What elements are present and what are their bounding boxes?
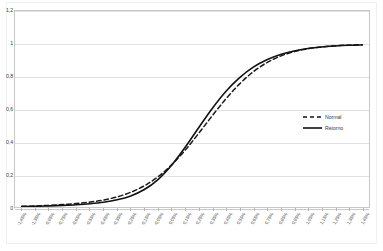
x-tick-mark	[76, 208, 77, 211]
x-tick-mark	[240, 208, 241, 211]
x-tick-mark	[21, 208, 22, 211]
x-tick-mark	[103, 208, 104, 211]
x-tick-mark	[62, 208, 63, 211]
x-tick-label: 0,95%	[291, 212, 302, 225]
y-tick-label: 0	[10, 205, 13, 211]
x-tick-mark	[89, 208, 90, 211]
x-tick-label: -0,75%	[57, 212, 68, 227]
x-tick-label: 0,55%	[236, 212, 247, 225]
x-tick-mark	[281, 208, 282, 211]
x-tick-label: 1,35%	[346, 212, 357, 225]
x-axis: -1,45%-1,35%-0,95%-0,75%-0,65%-0,55%-0,4…	[14, 208, 370, 248]
x-tick-label: 0,75%	[264, 212, 275, 225]
x-tick-label: 1,45%	[359, 212, 370, 225]
x-tick-label: 0,05%	[168, 212, 179, 225]
x-tick-label: 0,25%	[195, 212, 206, 225]
x-tick-mark	[322, 208, 323, 211]
x-tick-mark	[336, 208, 337, 211]
x-tick-label: 0,15%	[181, 212, 192, 225]
legend-swatch-retorno	[303, 125, 322, 131]
x-tick-label: 1,05%	[305, 212, 316, 225]
x-tick-mark	[35, 208, 36, 211]
y-tick-label: 1,2	[6, 7, 13, 13]
y-tick-label: 0,6	[6, 106, 13, 112]
x-tick-label: 1,15%	[318, 212, 329, 225]
x-tick-label: 1,25%	[332, 212, 343, 225]
x-tick-label: 0,85%	[277, 212, 288, 225]
y-tick-label: 0,2	[6, 172, 13, 178]
legend-label: Normal	[325, 114, 341, 120]
x-tick-label: 0,35%	[209, 212, 220, 225]
y-axis: 1,210,80,60,40,20	[0, 10, 14, 208]
x-tick-mark	[254, 208, 255, 211]
legend-swatch-normal	[303, 114, 322, 120]
x-tick-mark	[130, 208, 131, 211]
x-tick-label: -0,15%	[140, 212, 151, 227]
x-tick-mark	[226, 208, 227, 211]
x-tick-mark	[144, 208, 145, 211]
x-tick-mark	[48, 208, 49, 211]
chart-legend: NormalRetorno	[303, 111, 369, 133]
legend-item-retorno: Retorno	[303, 122, 369, 133]
x-tick-mark	[185, 208, 186, 211]
chart-figure: 1,210,80,60,40,20 -1,45%-1,35%-0,95%-0,7…	[0, 0, 383, 251]
y-tick-label: 1	[10, 40, 13, 46]
x-tick-label: 0,65%	[250, 212, 261, 225]
x-tick-mark	[349, 208, 350, 211]
x-tick-label: -1,35%	[30, 212, 41, 227]
x-tick-mark	[363, 208, 364, 211]
x-tick-mark	[117, 208, 118, 211]
x-tick-mark	[267, 208, 268, 211]
y-tick-label: 0,8	[6, 73, 13, 79]
x-tick-mark	[199, 208, 200, 211]
x-tick-mark	[213, 208, 214, 211]
x-tick-mark	[158, 208, 159, 211]
x-tick-mark	[308, 208, 309, 211]
x-tick-label: -0,25%	[126, 212, 137, 227]
x-tick-label: -0,65%	[71, 212, 82, 227]
y-tick-label: 0,4	[6, 139, 13, 145]
x-tick-mark	[295, 208, 296, 211]
plot-area	[14, 10, 370, 208]
x-tick-mark	[171, 208, 172, 211]
series-lines	[15, 11, 369, 207]
x-tick-label: -1,45%	[16, 212, 27, 227]
x-tick-label: -0,95%	[44, 212, 55, 227]
x-tick-label: -0,45%	[99, 212, 110, 227]
legend-label: Retorno	[325, 125, 343, 131]
x-tick-label: -0,05%	[153, 212, 164, 227]
x-tick-label: -0,35%	[112, 212, 123, 227]
x-tick-label: 0,45%	[222, 212, 233, 225]
legend-item-normal: Normal	[303, 111, 369, 122]
x-tick-label: -0,55%	[85, 212, 96, 227]
